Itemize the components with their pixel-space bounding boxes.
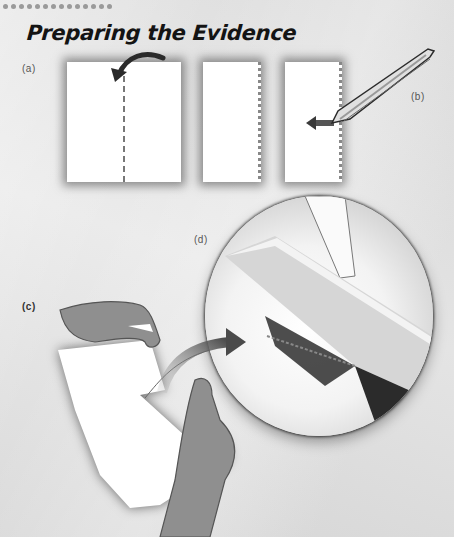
dotted-rule [3,4,112,9]
dot [51,4,56,9]
dot [11,4,16,9]
label-b: (b) [411,91,425,102]
dot [3,4,8,9]
dot [83,4,88,9]
label-a: (a) [22,63,36,74]
dot [107,4,112,9]
tweezers-icon [330,35,440,125]
tearing-paper-illustration [0,280,260,537]
dot [59,4,64,9]
dot [91,4,96,9]
dot [99,4,104,9]
dot [67,4,72,9]
curved-arrow-icon [105,50,175,90]
dot [27,4,32,9]
torn-edge [258,62,261,182]
dot [75,4,80,9]
dot [35,4,40,9]
dot [43,4,48,9]
paper-sheet-half [203,62,260,182]
page-title: Preparing the Evidence [26,21,297,45]
curved-arrow-icon [140,320,250,400]
fold-line [123,76,125,182]
dot [19,4,24,9]
